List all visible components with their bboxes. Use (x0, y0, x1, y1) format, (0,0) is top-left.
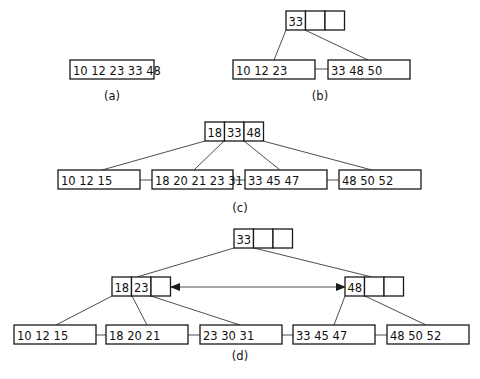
key-cell (273, 229, 293, 248)
leaf-keys: 23 30 31 (203, 329, 254, 343)
tree-edge (263, 141, 372, 170)
key-cell (151, 277, 171, 296)
internal-node: 183348 (205, 122, 264, 141)
leaf-node: 10 12 15 (58, 170, 140, 189)
cell-key: 33 (237, 233, 252, 247)
tree-edge (365, 296, 426, 325)
key-cell (365, 277, 385, 296)
leaf-node: 10 12 23 (233, 60, 315, 79)
panel-caption: (d) (232, 349, 248, 363)
leaf-node: 23 30 31 (200, 325, 282, 344)
leaf-keys: 18 20 21 (109, 329, 160, 343)
leaf-keys: 33 45 47 (296, 329, 347, 343)
panel-b: 3310 12 2333 48 50(b) (233, 11, 410, 103)
leaf-node: 48 50 52 (339, 170, 421, 189)
tree-edge (194, 141, 224, 170)
leaf-node: 18 20 21 23 31 (152, 170, 243, 189)
tree-edge (254, 248, 372, 277)
panel-caption: (c) (232, 201, 247, 215)
leaf-keys: 10 12 23 (236, 64, 287, 78)
cell-key: 48 (247, 126, 262, 140)
panel-a: 10 12 23 33 48(a) (70, 60, 161, 103)
key-cell (306, 11, 326, 30)
tree-edge (274, 30, 286, 60)
internal-node: 1823 (112, 277, 171, 296)
key-cell (254, 229, 274, 248)
leaf-node: 33 45 47 (293, 325, 375, 344)
cell-key: 18 (208, 126, 223, 140)
btree-diagram: 10 12 23 33 48(a)3310 12 2333 48 50(b)18… (0, 0, 480, 379)
leaf-node: 18 20 21 (106, 325, 188, 344)
panel-caption: (b) (312, 89, 328, 103)
tree-edge (244, 141, 280, 170)
leaf-node: 33 45 47 (245, 170, 327, 189)
leaf-node: 33 48 50 (328, 60, 410, 79)
tree-edge (56, 296, 112, 325)
cell-key: 33 (227, 126, 242, 140)
leaf-keys: 33 45 47 (248, 174, 299, 188)
tree-edge (151, 296, 240, 325)
leaf-keys: 10 12 23 33 48 (73, 64, 161, 78)
leaf-node: 10 12 23 33 48 (70, 60, 161, 79)
tree-edge (102, 141, 205, 170)
leaf-node: 10 12 15 (14, 325, 96, 344)
panel-d: 3318234810 12 1518 20 2123 30 3133 45 47… (14, 229, 469, 363)
tree-edge (305, 30, 368, 60)
cell-key: 33 (289, 15, 304, 29)
leaf-keys: 48 50 52 (342, 174, 393, 188)
cell-key: 23 (134, 281, 149, 295)
key-cell (384, 277, 404, 296)
cell-key: 48 (348, 281, 363, 295)
leaf-keys: 48 50 52 (390, 329, 441, 343)
tree-edge (137, 248, 234, 277)
leaf-keys: 18 20 21 23 31 (155, 174, 243, 188)
leaf-keys: 10 12 15 (61, 174, 112, 188)
panel-c: 18334810 12 1518 20 21 23 3133 45 4748 5… (58, 122, 421, 215)
internal-node: 33 (286, 11, 345, 30)
leaf-node: 48 50 52 (387, 325, 469, 344)
cell-key: 18 (115, 281, 130, 295)
leaf-keys: 33 48 50 (331, 64, 382, 78)
leaf-keys: 10 12 15 (17, 329, 68, 343)
panel-caption: (a) (104, 89, 120, 103)
key-cell (325, 11, 345, 30)
internal-node: 48 (345, 277, 404, 296)
internal-node: 33 (234, 229, 293, 248)
tree-edge (132, 296, 147, 325)
tree-edge (334, 296, 345, 325)
